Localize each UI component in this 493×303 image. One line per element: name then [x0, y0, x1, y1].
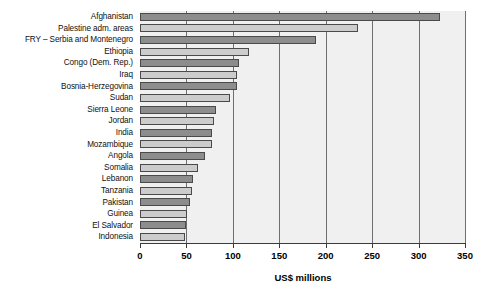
bar-row [140, 11, 465, 23]
bar [140, 71, 237, 79]
bar [140, 36, 316, 44]
bar-row [140, 197, 465, 209]
tick-mark [465, 243, 466, 248]
bar-row [140, 81, 465, 93]
category-label: Indonesia [0, 231, 136, 243]
x-axis-title: US$ millions [140, 272, 466, 283]
category-label: Ethiopia [0, 46, 136, 58]
bar [140, 175, 193, 183]
bar-row [140, 115, 465, 127]
category-label: Sierra Leone [0, 104, 136, 116]
bar [140, 94, 230, 102]
category-label: Guinea [0, 208, 136, 220]
tick-mark [419, 243, 420, 248]
tick-label: 300 [411, 250, 427, 261]
bar-row [140, 220, 465, 232]
category-label: Jordan [0, 115, 136, 127]
bar-row [140, 57, 465, 69]
category-label: Congo (Dem. Rep.) [0, 57, 136, 69]
bar-row [140, 231, 465, 243]
category-label: Angola [0, 150, 136, 162]
tick-mark [372, 243, 373, 248]
bar-row [140, 23, 465, 35]
category-label: Mozambique [0, 139, 136, 151]
bar [140, 210, 187, 218]
category-label: India [0, 127, 136, 139]
bar-row [140, 104, 465, 116]
bar [140, 82, 237, 90]
bar [140, 221, 186, 229]
bar [140, 129, 212, 137]
bar [140, 187, 192, 195]
category-label: Somalia [0, 162, 136, 174]
bar [140, 117, 214, 125]
tick-label: 50 [181, 250, 192, 261]
tick-mark [233, 243, 234, 248]
tick-label: 250 [364, 250, 380, 261]
bar [140, 48, 249, 56]
category-label: Tanzania [0, 185, 136, 197]
category-axis-labels: AfghanistanPalestine adm. areasFRY – Ser… [0, 11, 136, 243]
bar-chart: AfghanistanPalestine adm. areasFRY – Ser… [0, 0, 493, 303]
tick-mark [140, 243, 141, 248]
bar-row [140, 173, 465, 185]
plot-area [140, 11, 466, 243]
bar [140, 13, 440, 21]
category-label: Sudan [0, 92, 136, 104]
category-label: Pakistan [0, 197, 136, 209]
bar-row [140, 92, 465, 104]
tick-mark [279, 243, 280, 248]
bar-row [140, 127, 465, 139]
category-label: El Salvador [0, 220, 136, 232]
bar-row [140, 162, 465, 174]
category-label: FRY – Serbia and Montenegro [0, 34, 136, 46]
x-axis-tick-labels: 050100150200250300350 [140, 250, 466, 264]
x-axis-tick-marks [140, 243, 466, 248]
bar [140, 164, 198, 172]
bar [140, 24, 358, 32]
category-label: Bosnia-Herzegovina [0, 81, 136, 93]
category-label: Palestine adm. areas [0, 23, 136, 35]
tick-label: 350 [457, 250, 473, 261]
bar [140, 106, 216, 114]
tick-label: 100 [225, 250, 241, 261]
bar [140, 152, 205, 160]
bar [140, 198, 190, 206]
tick-mark [326, 243, 327, 248]
bar-row [140, 34, 465, 46]
bar [140, 140, 212, 148]
bar-row [140, 46, 465, 58]
bar-row [140, 150, 465, 162]
bar-row [140, 208, 465, 220]
tick-label: 0 [137, 250, 142, 261]
bar-row [140, 69, 465, 81]
tick-label: 200 [318, 250, 334, 261]
category-label: Iraq [0, 69, 136, 81]
bar-row [140, 139, 465, 151]
category-label: Lebanon [0, 173, 136, 185]
bar [140, 59, 239, 67]
category-label: Afghanistan [0, 11, 136, 23]
bar-row [140, 185, 465, 197]
bar [140, 233, 185, 241]
tick-label: 150 [271, 250, 287, 261]
tick-mark [186, 243, 187, 248]
bar-series [140, 11, 465, 243]
